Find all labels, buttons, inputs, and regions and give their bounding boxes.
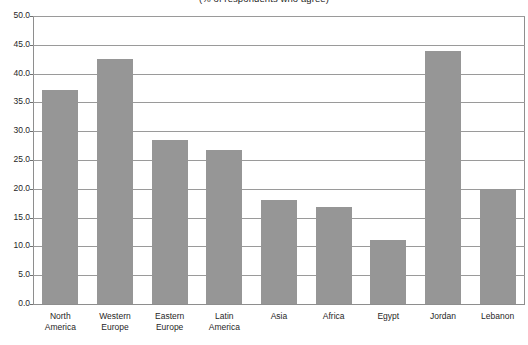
- chart-title: (% of respondents who agree): [0, 0, 528, 4]
- x-axis-tick-label: LatinAmerica: [197, 311, 252, 333]
- x-axis-tick-label: Lebanon: [470, 311, 525, 322]
- bar: [261, 200, 297, 304]
- y-axis-tick-label: 25.0: [3, 155, 30, 164]
- x-axis-tick-label: Egypt: [361, 311, 416, 322]
- y-axis: 0.05.010.015.020.025.030.035.040.045.050…: [0, 0, 30, 345]
- x-axis-tick-label: EasternEurope: [142, 311, 197, 333]
- x-axis-tick-label-line: Egypt: [361, 311, 416, 322]
- x-axis-tick-label-line: Asia: [252, 311, 307, 322]
- bar: [370, 240, 406, 305]
- y-axis-tick-label: 35.0: [3, 97, 30, 106]
- x-axis-category-labels: NorthAmericaWesternEuropeEasternEuropeLa…: [33, 307, 525, 345]
- bar: [480, 189, 516, 304]
- x-axis-tick-label: Jordan: [416, 311, 471, 322]
- x-axis-tick-label-line: America: [197, 322, 252, 333]
- y-axis-tick-label: 0.0: [3, 299, 30, 308]
- x-axis-tick-label-line: Africa: [306, 311, 361, 322]
- x-axis-tick-label-line: Lebanon: [470, 311, 525, 322]
- plot-area: [33, 16, 525, 304]
- y-axis-tick-label: 30.0: [3, 126, 30, 135]
- y-axis-tick-label: 20.0: [3, 184, 30, 193]
- bar: [42, 90, 78, 304]
- bar: [97, 59, 133, 304]
- bar-chart: (% of respondents who agree) 0.05.010.01…: [0, 0, 528, 345]
- y-axis-tick-label: 50.0: [3, 11, 30, 20]
- y-axis-tick-label: 40.0: [3, 69, 30, 78]
- x-axis-tick-label: Asia: [252, 311, 307, 322]
- bar: [316, 207, 352, 304]
- x-axis-tick-label: WesternEurope: [88, 311, 143, 333]
- y-axis-tick-label: 5.0: [3, 270, 30, 279]
- y-axis-tick-label: 10.0: [3, 241, 30, 250]
- bar: [152, 140, 188, 304]
- y-axis-tick-label: 45.0: [3, 40, 30, 49]
- x-axis-tick-label-line: Western: [88, 311, 143, 322]
- x-axis-tick-label-line: Eastern: [142, 311, 197, 322]
- x-axis-tick-label: Africa: [306, 311, 361, 322]
- x-axis-tick-label: NorthAmerica: [33, 311, 88, 333]
- x-axis-tick-label-line: North: [33, 311, 88, 322]
- bar: [206, 150, 242, 304]
- bar: [425, 51, 461, 304]
- x-axis-tick-label-line: America: [33, 322, 88, 333]
- x-axis-baseline: [33, 304, 525, 305]
- x-axis-tick-label-line: Europe: [142, 322, 197, 333]
- x-axis-tick-label-line: Jordan: [416, 311, 471, 322]
- x-axis-tick-label-line: Latin: [197, 311, 252, 322]
- gridline: [33, 45, 525, 46]
- x-axis-tick-label-line: Europe: [88, 322, 143, 333]
- y-axis-tick-label: 15.0: [3, 213, 30, 222]
- gridline: [33, 16, 525, 17]
